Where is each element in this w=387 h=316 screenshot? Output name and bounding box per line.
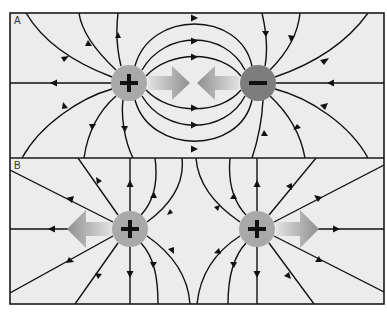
charge-a-negative bbox=[240, 65, 276, 101]
charge-a-positive bbox=[111, 65, 147, 101]
panel-a-label: A bbox=[14, 15, 21, 26]
panel-b-background bbox=[10, 158, 384, 304]
panel-a bbox=[10, 13, 384, 158]
panel-a-background bbox=[10, 13, 384, 158]
panel-b-label: B bbox=[14, 160, 21, 171]
charge-b-positive-left bbox=[112, 211, 148, 247]
diagram-canvas: A B bbox=[0, 0, 387, 316]
charge-b-positive-right bbox=[239, 211, 275, 247]
field-line-diagram: A B bbox=[0, 0, 387, 316]
panel-b bbox=[10, 158, 384, 304]
